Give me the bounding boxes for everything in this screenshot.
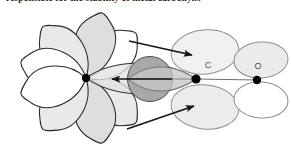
metal-atom-dot (82, 74, 90, 82)
orbital-diagram-figure: responsible for the stability of metal c… (0, 0, 291, 159)
oxygen-pi-lobe-lower (233, 80, 289, 120)
oxygen-label: O (254, 61, 261, 71)
oxygen-pi-lobe-upper (233, 40, 289, 80)
carbon-label: C (205, 60, 212, 70)
bonding-diagram-svg: C O (0, 0, 291, 159)
oxygen-atom-dot (253, 76, 261, 84)
carbon-atom-dot (191, 74, 200, 83)
carbon-pi-lobe-lower (169, 82, 241, 133)
